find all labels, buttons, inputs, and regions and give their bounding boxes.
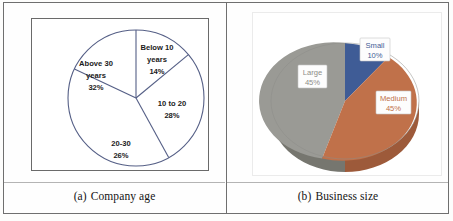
- panel-company-age: Below 10 years 14% 10 to 20 28% 20-30 26…: [3, 2, 226, 214]
- svg-text:years: years: [86, 71, 106, 80]
- caption-text-b: Business size: [315, 190, 378, 202]
- svg-text:20-30: 20-30: [111, 139, 130, 148]
- svg-text:Medium: Medium: [380, 94, 407, 103]
- pie-label-large: Large 45%: [298, 65, 327, 88]
- pie-chart-business-size: Small 10% Large 45% Medium 45%: [253, 13, 441, 175]
- svg-text:45%: 45%: [305, 78, 320, 87]
- svg-text:26%: 26%: [113, 151, 128, 160]
- svg-text:10 to 20: 10 to 20: [158, 99, 186, 108]
- svg-text:Above 30: Above 30: [79, 59, 113, 68]
- plot-area-company-age: Below 10 years 14% 10 to 20 28% 20-30 26…: [31, 18, 209, 171]
- caption-tag-b: (b): [298, 190, 312, 202]
- svg-text:years: years: [147, 55, 167, 64]
- caption-business-size: (b)Business size: [227, 190, 449, 202]
- svg-text:28%: 28%: [164, 111, 179, 120]
- caption-tag-a: (a): [74, 190, 87, 202]
- panel-business-size: Small 10% Large 45% Medium 45% (b)Busin: [227, 2, 449, 214]
- pie-label-small: Small 10%: [360, 38, 390, 61]
- figure-container: Below 10 years 14% 10 to 20 28% 20-30 26…: [0, 0, 453, 221]
- svg-text:45%: 45%: [386, 104, 401, 113]
- caption-company-age: (a)Company age: [3, 190, 226, 202]
- svg-text:Below 10: Below 10: [141, 43, 174, 52]
- svg-text:32%: 32%: [88, 83, 103, 92]
- svg-text:10%: 10%: [367, 51, 382, 60]
- caption-text-a: Company age: [91, 190, 156, 202]
- svg-text:14%: 14%: [149, 67, 164, 76]
- svg-text:Small: Small: [366, 41, 385, 50]
- pie-chart-company-age: Below 10 years 14% 10 to 20 28% 20-30 26…: [32, 19, 208, 170]
- plot-area-business-size: Small 10% Large 45% Medium 45%: [252, 12, 442, 176]
- pie-label-medium: Medium 45%: [376, 91, 411, 114]
- svg-text:Large: Large: [303, 68, 322, 77]
